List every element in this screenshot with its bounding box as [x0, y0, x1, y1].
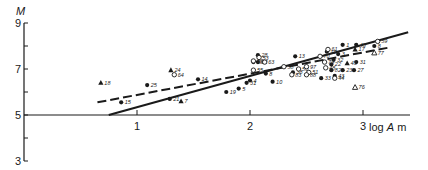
data-point-filled-circle: 14 — [196, 76, 208, 82]
point-label: 48 — [329, 65, 336, 71]
open-circle-icon — [304, 65, 308, 69]
open-triangle-icon — [352, 85, 357, 90]
point-label: 27 — [356, 67, 364, 73]
data-point-filled-circle: 27 — [352, 67, 365, 73]
x-axis-title: log A m — [369, 121, 406, 133]
open-circle-icon — [296, 67, 300, 71]
filled-circle-icon — [372, 44, 376, 48]
point-label: 10 — [276, 79, 283, 85]
point-label: 63 — [268, 59, 275, 65]
scatter-chart: 3579123 15252114195314108281812133833431… — [0, 0, 428, 170]
point-label: 14 — [202, 76, 208, 82]
filled-circle-icon — [352, 68, 356, 72]
filled-triangle-icon — [345, 60, 350, 65]
data-point-open-triangle: 77 — [372, 50, 385, 56]
point-label: 83 — [295, 72, 302, 78]
data-point-filled-circle: 25 — [145, 82, 158, 88]
open-circle-icon — [251, 59, 255, 63]
x-axis-title-unit: m — [394, 121, 406, 133]
open-circle-icon — [375, 39, 379, 43]
data-points: 1525211419531410828181213383343111345222… — [98, 38, 387, 105]
open-circle-icon — [322, 60, 326, 64]
filled-circle-icon — [341, 68, 345, 72]
point-label: 44 — [338, 75, 344, 81]
data-point-open-circle: 44 — [333, 75, 345, 81]
point-label: 43 — [351, 60, 358, 66]
data-point-open-triangle: 76 — [352, 84, 365, 90]
open-circle-icon — [326, 47, 330, 51]
data-point-filled-circle: 10 — [271, 79, 284, 85]
dashed-regression-line — [97, 47, 391, 102]
point-label: 61 — [331, 46, 337, 52]
data-point-filled-triangle: 7 — [178, 98, 188, 104]
x-axis-title-prefix: log — [369, 121, 387, 133]
point-label: 18 — [104, 80, 111, 86]
open-circle-icon — [324, 66, 328, 70]
open-circle-icon — [318, 54, 322, 58]
open-circle-icon — [282, 65, 286, 69]
x-axis-title-var: A — [386, 121, 394, 133]
data-point-filled-triangle: 24 — [168, 67, 180, 73]
point-label: 21 — [172, 96, 179, 102]
open-circle-icon — [251, 68, 255, 72]
filled-circle-icon — [248, 78, 252, 82]
point-label: 82 — [335, 67, 341, 73]
data-point-filled-circle: 13 — [293, 53, 306, 59]
filled-circle-icon — [237, 86, 241, 90]
filled-circle-icon — [319, 76, 323, 80]
open-circle-icon — [333, 76, 337, 80]
point-label: 76 — [359, 84, 366, 90]
y-axis-title: M — [16, 5, 26, 17]
filled-circle-icon — [341, 43, 345, 47]
data-point-filled-circle: 21 — [168, 96, 180, 102]
point-label: 5 — [242, 86, 246, 92]
point-label: 33 — [325, 75, 332, 81]
point-label: 4 — [254, 78, 257, 84]
data-point-open-circle: 55 — [251, 67, 264, 73]
filled-circle-icon — [293, 54, 297, 58]
filled-circle-icon — [145, 83, 149, 87]
point-label: 31 — [360, 59, 366, 65]
filled-triangle-icon — [168, 67, 173, 72]
data-point-open-circle: 59 — [375, 38, 387, 44]
data-point-filled-triangle: 18 — [98, 80, 111, 86]
open-circle-icon — [262, 60, 266, 64]
point-label: 59 — [381, 38, 387, 44]
point-label: 24 — [173, 67, 180, 73]
filled-circle-icon — [264, 72, 268, 76]
point-label: 15 — [125, 99, 132, 105]
point-label: 25 — [150, 82, 158, 88]
point-label: 32 — [337, 57, 343, 63]
point-label: 19 — [230, 89, 236, 95]
point-label: 17 — [359, 46, 366, 52]
point-label: 58 — [287, 64, 294, 70]
data-point-filled-circle: 1 — [341, 42, 350, 48]
data-point-filled-triangle: 43 — [345, 60, 358, 66]
data-point-filled-circle: 19 — [224, 89, 236, 95]
point-label: 1 — [346, 42, 349, 48]
data-point-filled-circle: 5 — [237, 86, 247, 92]
x-tick-label: 1 — [134, 120, 140, 132]
point-label: 77 — [378, 50, 385, 56]
data-point-open-circle: 58 — [282, 64, 295, 70]
data-point-open-circle: 88 — [304, 72, 317, 78]
axes: 3579123 — [15, 17, 410, 167]
point-label: 55 — [257, 67, 264, 73]
data-point-open-circle: 63 — [262, 59, 275, 65]
point-label: 7 — [185, 98, 189, 104]
point-label: 13 — [299, 53, 306, 59]
y-tick-label: 5 — [15, 109, 21, 121]
y-tick-label: 9 — [15, 17, 21, 29]
data-point-open-circle: 48 — [324, 65, 337, 71]
y-tick-label: 3 — [15, 155, 21, 167]
data-point-open-circle: 83 — [290, 72, 303, 78]
x-tick-label: 3 — [360, 120, 366, 132]
filled-circle-icon — [336, 52, 340, 56]
filled-circle-icon — [271, 80, 275, 84]
y-tick-label: 7 — [15, 63, 21, 75]
open-circle-icon — [172, 73, 176, 77]
filled-circle-icon — [224, 90, 228, 94]
open-circle-icon — [304, 73, 308, 77]
point-label: 8 — [269, 71, 273, 77]
filled-circle-icon — [196, 77, 200, 81]
